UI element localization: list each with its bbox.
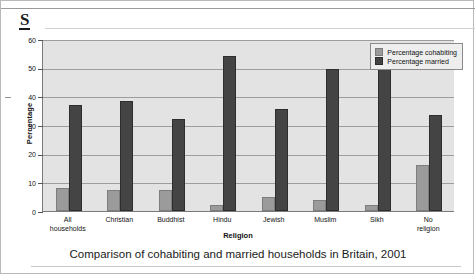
legend-item-married: Percentage married xyxy=(375,57,457,65)
bar-chart: Percentage 0102030405060 AllhouseholdsCh… xyxy=(1,31,475,243)
bar-cohabiting-0 xyxy=(56,188,69,211)
gridline-20 xyxy=(43,155,454,156)
gridline-40 xyxy=(43,97,454,98)
gridline-30 xyxy=(43,126,454,127)
y-tick-label-40: 40 xyxy=(14,94,36,101)
legend-label-cohabiting: Percentage cohabiting xyxy=(387,49,457,56)
bar-married-3 xyxy=(223,56,236,211)
bar-married-5 xyxy=(326,69,339,211)
y-tick-label-30: 30 xyxy=(14,123,36,130)
figure-caption: Comparison of cohabiting and married hou… xyxy=(1,248,475,260)
y-tick-mark-50 xyxy=(38,69,43,70)
caption-divider xyxy=(31,266,461,267)
y-tick-label-60: 60 xyxy=(14,37,36,44)
gridline-10 xyxy=(43,183,454,184)
legend-label-married: Percentage married xyxy=(387,58,448,65)
y-tick-mark-60 xyxy=(38,40,43,41)
bar-married-2 xyxy=(172,119,185,211)
legend-item-cohabiting: Percentage cohabiting xyxy=(375,48,457,56)
bar-married-4 xyxy=(275,109,288,211)
y-tick-mark-10 xyxy=(38,183,43,184)
bar-cohabiting-4 xyxy=(262,197,275,211)
bar-married-1 xyxy=(120,101,133,211)
bar-married-6 xyxy=(378,62,391,211)
legend-swatch-married-icon xyxy=(375,57,383,65)
bar-married-7 xyxy=(429,115,442,211)
y-tick-label-10: 10 xyxy=(14,180,36,187)
x-tick-label-1: Christian xyxy=(94,216,146,225)
legend-swatch-cohabiting-icon xyxy=(375,48,383,56)
bar-cohabiting-3 xyxy=(210,205,223,211)
x-tick-label-2: Buddhist xyxy=(145,216,197,225)
y-tick-mark-40 xyxy=(38,97,43,98)
section-heading: S xyxy=(19,11,459,33)
bar-cohabiting-7 xyxy=(416,165,429,211)
heading-divider xyxy=(45,28,475,29)
bar-married-0 xyxy=(69,105,82,211)
y-tick-label-0: 0 xyxy=(14,209,36,216)
x-tick-label-4: Jewish xyxy=(248,216,300,225)
x-tick-label-3: Hindu xyxy=(197,216,249,225)
bar-cohabiting-5 xyxy=(313,200,326,211)
y-tick-mark-30 xyxy=(38,126,43,127)
y-tick-label-50: 50 xyxy=(14,65,36,72)
bar-cohabiting-1 xyxy=(107,190,120,212)
chart-legend: Percentage cohabiting Percentage married xyxy=(370,43,463,70)
x-axis-label: Religion xyxy=(1,231,475,240)
x-tick-label-5: Muslim xyxy=(300,216,352,225)
y-tick-mark-20 xyxy=(38,155,43,156)
top-divider xyxy=(1,8,475,9)
bar-cohabiting-2 xyxy=(159,190,172,212)
heading-letter: S xyxy=(19,11,30,30)
x-tick-label-6: Sikh xyxy=(351,216,403,225)
y-tick-mark-0 xyxy=(38,212,43,213)
gridline-60 xyxy=(43,40,454,41)
bar-cohabiting-6 xyxy=(365,205,378,211)
y-tick-label-20: 20 xyxy=(14,151,36,158)
